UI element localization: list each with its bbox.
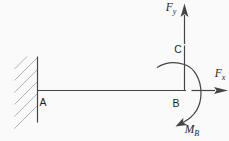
diagram-lines xyxy=(0,0,229,141)
hatch-line xyxy=(15,70,38,93)
force-label-fy: Fy xyxy=(166,2,177,16)
force-symbol-fy: F xyxy=(166,1,173,13)
force-subscript-fy: y xyxy=(173,7,177,16)
fy-arrowhead xyxy=(181,4,189,18)
moment-subscript-mb: B xyxy=(194,129,199,138)
point-label-c: C xyxy=(174,44,182,55)
fx-arrowhead xyxy=(214,87,228,94)
hatch-line xyxy=(15,117,27,129)
moment-label-mb: MB xyxy=(185,123,199,137)
force-label-fx: Fx xyxy=(215,67,226,81)
force-symbol-fx: F xyxy=(215,66,222,78)
beam-free-body-diagram: A B C Fy Fx MB xyxy=(0,0,229,141)
point-label-a: A xyxy=(39,97,46,108)
hatch-line xyxy=(15,82,38,105)
hatch-line xyxy=(15,94,38,117)
structure-lines xyxy=(38,15,216,123)
wall-hatching xyxy=(15,57,38,129)
hatch-line xyxy=(15,57,28,70)
moment-arc xyxy=(157,63,201,123)
force-subscript-fx: x xyxy=(222,73,226,82)
moment-symbol-mb: M xyxy=(185,122,195,134)
hatch-line xyxy=(15,58,38,81)
point-label-b: B xyxy=(172,97,179,108)
